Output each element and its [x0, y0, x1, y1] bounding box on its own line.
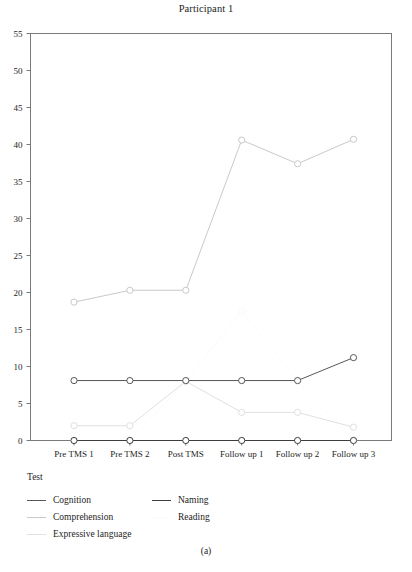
legend-item-label: Reading: [178, 513, 210, 523]
y-axis-tick-label: 25: [14, 251, 24, 261]
figure-panel: Participant 1 0510152025303540455055 Pre…: [0, 0, 412, 572]
series-comprehension: [71, 136, 357, 305]
plot-area: 0510152025303540455055 Pre TMS 1Pre TMS …: [0, 0, 412, 466]
data-point-marker: [239, 377, 245, 383]
data-point-marker: [295, 409, 301, 415]
legend-item[interactable]: Comprehension: [27, 509, 131, 526]
x-axis-tick-label: Follow up 1: [220, 449, 264, 459]
data-point-marker: [295, 377, 301, 383]
legend-item[interactable]: Reading: [152, 509, 210, 526]
data-point-marker: [127, 437, 133, 443]
y-axis-tick-label: 50: [14, 66, 24, 76]
y-axis-tick-label: 5: [18, 399, 23, 409]
y-axis-tick-label: 10: [14, 362, 24, 372]
x-axis-tick-label: Follow up 2: [276, 449, 320, 459]
legend-item-label: Cognition: [53, 496, 91, 506]
series-naming: [71, 437, 357, 443]
y-axis: 0510152025303540455055: [14, 29, 31, 446]
data-point-marker: [350, 355, 356, 361]
data-point-marker: [127, 423, 133, 429]
legend-swatch-line-icon: [27, 500, 46, 501]
data-series-layer: [71, 136, 357, 443]
legend-swatch-line-icon: [27, 534, 46, 535]
data-point-marker: [350, 437, 356, 443]
data-point-marker: [350, 136, 356, 142]
data-point-marker: [239, 437, 245, 443]
plot-frame: [31, 34, 392, 441]
data-point-marker: [295, 437, 301, 443]
data-point-marker: [350, 424, 356, 430]
y-axis-tick-label: 45: [14, 103, 24, 113]
series-cognition: [71, 355, 357, 384]
axis-frame: [31, 34, 392, 441]
x-axis-tick-label: Post TMS: [168, 449, 204, 459]
data-point-marker: [183, 437, 189, 443]
legend-swatch-line-icon: [27, 517, 46, 518]
data-point-marker: [71, 437, 77, 443]
legend-column-right: NamingReading: [152, 492, 210, 526]
data-point-marker: [71, 423, 77, 429]
series-line: [74, 358, 354, 381]
x-axis-tick-label: Pre TMS 2: [110, 449, 149, 459]
series-line: [74, 381, 354, 427]
line-chart-svg: 0510152025303540455055 Pre TMS 1Pre TMS …: [0, 0, 412, 466]
data-point-marker: [127, 287, 133, 293]
data-point-marker: [183, 287, 189, 293]
legend-item[interactable]: Cognition: [27, 492, 131, 509]
data-point-marker: [239, 308, 245, 314]
x-axis: Pre TMS 1Pre TMS 2Post TMSFollow up 1Fol…: [54, 441, 375, 459]
data-point-marker: [71, 299, 77, 305]
series-line: [74, 139, 354, 302]
y-axis-tick-label: 0: [18, 436, 23, 446]
legend-title: Test: [27, 472, 43, 482]
legend-swatch-line-icon: [152, 500, 171, 501]
series-reading: [71, 308, 357, 444]
x-axis-tick-label: Pre TMS 1: [54, 449, 93, 459]
y-axis-tick-label: 55: [14, 29, 24, 39]
legend-column-left: CognitionComprehensionExpressive languag…: [27, 492, 131, 543]
legend-item-label: Naming: [178, 496, 209, 506]
data-point-marker: [71, 377, 77, 383]
data-point-marker: [127, 377, 133, 383]
y-axis-tick-label: 20: [14, 288, 24, 298]
legend-item-label: Expressive language: [53, 530, 131, 540]
series-expressive-language: [71, 378, 357, 430]
figure-caption: (a): [0, 546, 412, 556]
y-axis-tick-label: 35: [14, 177, 24, 187]
legend-swatch-line-icon: [152, 517, 171, 518]
y-axis-tick-label: 15: [14, 325, 24, 335]
data-point-marker: [239, 137, 245, 143]
y-axis-tick-label: 30: [14, 214, 24, 224]
data-point-marker: [295, 161, 301, 167]
data-point-marker: [183, 377, 189, 383]
y-axis-tick-label: 40: [14, 140, 24, 150]
x-axis-tick-label: Follow up 3: [332, 449, 376, 459]
data-point-marker: [239, 409, 245, 415]
legend-item[interactable]: Naming: [152, 492, 210, 509]
legend-item[interactable]: Expressive language: [27, 526, 131, 543]
legend: Test CognitionComprehensionExpressive la…: [0, 466, 412, 546]
legend-item-label: Comprehension: [53, 513, 113, 523]
series-line: [74, 311, 354, 441]
